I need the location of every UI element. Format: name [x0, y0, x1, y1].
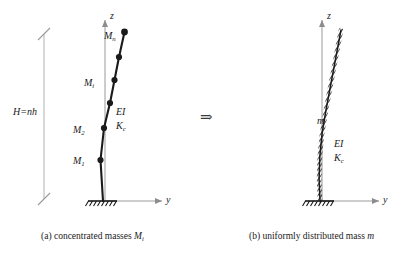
panel-a-drawing: [38, 20, 162, 206]
mass-node-m2: [101, 125, 107, 131]
mass-subscript: i: [92, 82, 94, 89]
stiffness-label-ei-a: EI: [116, 107, 125, 117]
caption-panel-b: (b) uniformly distributed mass m: [249, 232, 374, 242]
mass-subscript: 1: [81, 160, 84, 167]
axis-label-z-b: z: [327, 11, 331, 21]
stiffness-subscript: c: [123, 125, 126, 132]
mass-label-mi: Mi: [84, 78, 94, 90]
mass-subscript: 2: [81, 129, 84, 136]
distributed-mass-label: m: [317, 116, 324, 126]
mass-subscript: n: [112, 35, 115, 42]
caption-symbol: M: [134, 231, 142, 241]
mass-node-mn: [121, 29, 128, 36]
mass-node-mi: [111, 77, 117, 83]
mass-label-mn: Mn: [104, 31, 116, 43]
caption-panel-a: (a) concentrated masses Mi: [41, 232, 144, 242]
figure-container: z y H=nh Mn Mi M2 M1 EI Kc (a) concentra…: [0, 0, 414, 261]
axis-label-y-a: y: [166, 195, 170, 205]
mass-node-m1: [97, 157, 103, 163]
stiffness-symbol: K: [334, 152, 341, 163]
caption-subscript: i: [142, 235, 144, 242]
stiffness-label-kc-b: Kc: [334, 153, 344, 165]
stiffness-subscript: c: [341, 157, 344, 164]
mass-node-intermediate: [107, 100, 113, 106]
mass-symbol: m: [317, 115, 324, 126]
stiffness-symbol: EI: [116, 106, 125, 117]
stiffness-symbol: EI: [334, 138, 343, 149]
stiffness-symbol: K: [116, 120, 123, 131]
figure-drawing: [0, 0, 414, 261]
caption-text: (b) uniformly distributed mass: [249, 231, 367, 241]
axis-label-y-b: y: [383, 195, 387, 205]
fixed-support-a: [86, 201, 118, 206]
stiffness-label-ei-b: EI: [334, 139, 343, 149]
transform-arrow-icon: ⇒: [200, 110, 213, 125]
mass-label-m1: M1: [73, 156, 85, 168]
dimension-line-h: [38, 28, 50, 205]
caption-symbol: m: [367, 231, 374, 241]
axis-label-z-a: z: [110, 11, 114, 21]
panel-b-drawing: [303, 20, 380, 206]
mass-label-m2: M2: [73, 125, 85, 137]
dimension-label-h: H=nh: [13, 107, 37, 117]
caption-text: (a) concentrated masses: [41, 231, 134, 241]
mass-node-upper: [116, 54, 122, 60]
stiffness-label-kc-a: Kc: [116, 121, 126, 133]
